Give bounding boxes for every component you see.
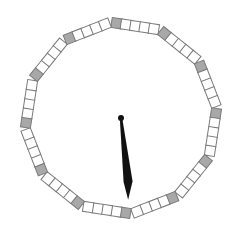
minute-tick-square (82, 201, 93, 212)
minute-tick-square (204, 145, 215, 156)
minute-tick-square (148, 23, 159, 34)
minute-hand[interactable] (118, 117, 134, 199)
hand-pivot (118, 115, 124, 121)
minute-tick-square (26, 79, 37, 90)
clock-dial (0, 0, 241, 251)
clock-hand[interactable] (118, 115, 134, 200)
